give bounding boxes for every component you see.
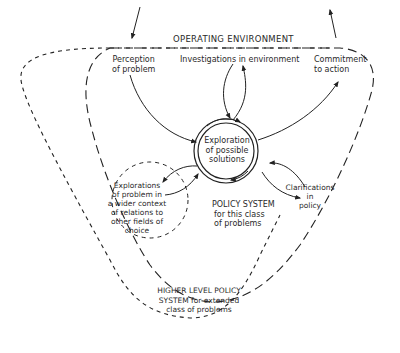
- arrow-to-wider-context: [163, 166, 197, 182]
- perception-line-1: Perception: [112, 55, 155, 65]
- clarifications-line-1: Clarifications: [282, 183, 338, 192]
- arrow-out-of-environment: [330, 10, 336, 38]
- policy-system-label: POLICY SYSTEMfor this classof problems: [212, 200, 275, 229]
- arrow-from-investigations: [224, 64, 233, 118]
- commitment-line-2: to action: [314, 65, 366, 75]
- exploration-node: Explorationof possiblesolutions: [200, 136, 254, 165]
- commitment-node: Commitmentto action: [314, 55, 366, 74]
- policy-system-line-2: for this class: [212, 210, 275, 220]
- wider-context-node: Explorationsof problem ina wider context…: [105, 181, 169, 235]
- wider-context-line-4: of relations to: [105, 208, 169, 217]
- operating-environment-label: OPERATING ENVIRONMENT: [173, 35, 294, 45]
- exploration-line-2: of possible: [200, 146, 254, 156]
- wider-context-line-6: choice: [105, 226, 169, 235]
- arrow-into-environment: [132, 7, 140, 38]
- arrow-from-wider-context: [165, 174, 198, 195]
- exploration-line-1: Exploration: [200, 136, 254, 146]
- arrow-exploration-to-commitment: [258, 82, 338, 140]
- arrow-to-investigations: [233, 66, 246, 120]
- exploration-line-3: solutions: [200, 155, 254, 165]
- higher-level-line-1: HIGHER LEVEL POLICY: [144, 286, 254, 296]
- investigations-node: Investigations in environment: [180, 55, 299, 65]
- clarifications-line-2: in: [282, 192, 338, 201]
- clarifications-line-3: policy: [282, 201, 338, 210]
- perception-line-2: of problem: [112, 65, 155, 75]
- higher-level-line-2: SYSTEM for extended: [144, 296, 254, 306]
- policy-system-line-1: POLICY SYSTEM: [212, 200, 275, 210]
- higher-level-label: HIGHER LEVEL POLICYSYSTEM for extendedcl…: [144, 286, 254, 315]
- higher-level-line-3: class of problems: [144, 305, 254, 315]
- perception-node: Perceptionof problem: [112, 55, 155, 74]
- wider-context-line-3: a wider context: [105, 199, 169, 208]
- wider-context-line-5: other fields of: [105, 217, 169, 226]
- wider-context-line-1: Explorations: [105, 181, 169, 190]
- arrow-perception-to-exploration: [130, 75, 196, 142]
- clarifications-node: Clarificationsinpolicy: [282, 183, 338, 210]
- policy-system-line-3: of problems: [212, 219, 275, 229]
- commitment-line-1: Commitment: [314, 55, 366, 65]
- wider-context-line-2: of problem in: [105, 190, 169, 199]
